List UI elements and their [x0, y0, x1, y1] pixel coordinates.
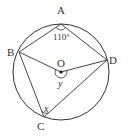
label-b: B [7, 46, 14, 58]
angle-label-x: x [43, 103, 49, 114]
label-a: A [57, 4, 65, 16]
geometry-diagram: A B C D O 110° y x [0, 0, 130, 139]
label-d: D [109, 54, 117, 66]
angle-label-a: 110° [53, 32, 70, 42]
label-o: O [57, 57, 65, 69]
label-c: C [37, 120, 44, 132]
center-point-o [59, 70, 62, 73]
angle-label-y: y [57, 78, 63, 89]
angle-arc-a [56, 27, 66, 30]
